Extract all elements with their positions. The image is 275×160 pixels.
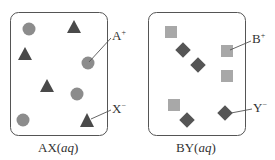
label-b-charge: + bbox=[261, 31, 266, 40]
label-a-plus: A+ bbox=[112, 28, 126, 44]
cation-b-square bbox=[221, 70, 233, 82]
label-y-minus: Y− bbox=[253, 100, 267, 116]
label-y-charge: − bbox=[262, 100, 267, 109]
caption-by-state: aq bbox=[198, 140, 211, 155]
caption-ax: AX(aq) bbox=[38, 140, 78, 156]
caption-ax-formula: AX( bbox=[38, 140, 61, 155]
diagram-canvas bbox=[0, 0, 275, 160]
cation-a-circle bbox=[71, 88, 84, 101]
label-b-plus: B+ bbox=[252, 31, 265, 47]
cation-a-circle bbox=[23, 23, 36, 36]
cation-b-square bbox=[221, 45, 233, 57]
label-x-text: X bbox=[112, 101, 121, 116]
label-a-text: A bbox=[112, 28, 121, 43]
cation-b-square bbox=[168, 99, 180, 111]
label-y-text: Y bbox=[253, 100, 262, 115]
label-x-minus: X− bbox=[112, 101, 126, 117]
cation-b-square bbox=[165, 26, 177, 38]
caption-by: BY(aq) bbox=[176, 140, 216, 156]
label-a-charge: + bbox=[121, 28, 126, 37]
label-b-text: B bbox=[252, 31, 261, 46]
caption-ax-close: ) bbox=[74, 140, 78, 155]
caption-by-formula: BY( bbox=[176, 140, 198, 155]
caption-ax-state: aq bbox=[61, 140, 74, 155]
caption-by-close: ) bbox=[211, 140, 215, 155]
label-x-charge: − bbox=[121, 101, 126, 110]
cation-a-circle bbox=[17, 114, 30, 127]
